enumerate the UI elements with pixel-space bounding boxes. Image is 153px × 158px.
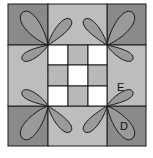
label-d: D bbox=[120, 120, 128, 132]
quilt-block-diagram bbox=[0, 0, 153, 158]
center-nine-patch bbox=[48, 45, 107, 106]
label-e: E bbox=[117, 81, 124, 93]
